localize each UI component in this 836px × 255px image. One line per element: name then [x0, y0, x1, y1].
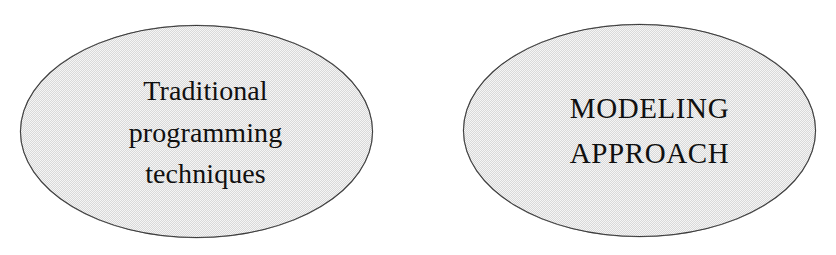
- ellipse-label-line-3: techniques: [30, 153, 381, 194]
- ellipse-node-traditional-programming-techniques[interactable]: Traditional programming techniques: [20, 25, 373, 238]
- ellipse-label-line-1: Traditional: [30, 70, 381, 111]
- ellipse-label-line-2: APPROACH: [474, 131, 825, 175]
- ellipse-node-modeling-approach[interactable]: MODELING APPROACH: [463, 24, 816, 237]
- diagram-canvas: Traditional programming techniques MODEL…: [0, 0, 836, 255]
- ellipse-node-label: Traditional programming techniques: [30, 70, 381, 194]
- ellipse-label-line-1: MODELING: [474, 86, 825, 130]
- ellipse-node-label: MODELING APPROACH: [474, 86, 825, 174]
- ellipse-label-line-2: programming: [30, 112, 381, 153]
